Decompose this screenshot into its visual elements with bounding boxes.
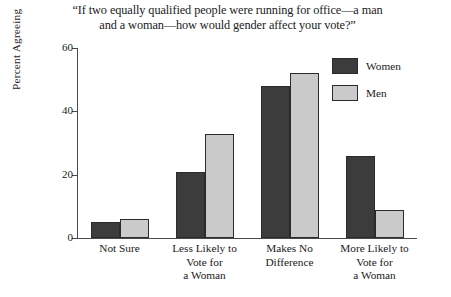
bar-men (375, 210, 404, 239)
bar-women (261, 86, 290, 238)
bar-men (290, 73, 319, 238)
y-tick-label: 40 (62, 103, 73, 118)
x-axis-label: Makes No Difference (241, 242, 338, 269)
x-axis-label: Not Sure (71, 242, 168, 256)
y-tick-label: 60 (62, 40, 73, 55)
bar-men (120, 219, 149, 238)
chart-legend: WomenMen (332, 55, 442, 109)
bar-women (346, 156, 375, 238)
legend-swatch (332, 58, 358, 74)
bar-chart-figure: “If two equally qualified people were ru… (0, 0, 451, 297)
bar-men (205, 134, 234, 239)
y-axis-title: Percent Agreeing (10, 9, 22, 90)
bar-women (91, 222, 120, 238)
legend-item-men: Men (332, 82, 442, 103)
legend-label: Men (366, 87, 387, 99)
legend-swatch (332, 85, 358, 101)
y-tick-label: 20 (62, 167, 73, 182)
chart-title: “If two equally qualified people were ru… (50, 3, 405, 32)
bar-group (261, 48, 319, 238)
x-axis-label: Less Likely to Vote for a Woman (156, 242, 253, 283)
y-axis-line (77, 48, 78, 238)
x-axis-label: More Likely to Vote for a Woman (326, 242, 423, 283)
bar-group (91, 48, 149, 238)
bar-women (176, 172, 205, 239)
legend-item-women: Women (332, 55, 442, 76)
x-axis-line (77, 238, 417, 239)
bar-group (176, 48, 234, 238)
legend-label: Women (366, 60, 401, 72)
